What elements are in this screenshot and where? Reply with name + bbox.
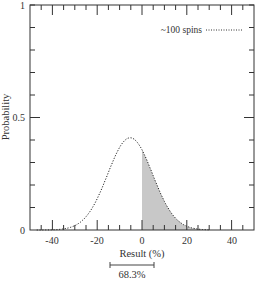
x-axis-label: Result (%): [119, 248, 165, 260]
probability-chart: 1 0.5 0 -40 -20 0 20 40 Result (%) Proba…: [0, 0, 258, 282]
y-tick-label: 1: [20, 0, 25, 11]
y-tick-label: 0.5: [13, 112, 26, 123]
legend-label: ~100 spins: [161, 25, 203, 35]
shaded-region: [142, 150, 209, 230]
y-tick-label: 0: [20, 225, 25, 236]
std-bracket: [110, 262, 154, 268]
bracket-label: 68.3%: [118, 269, 145, 280]
x-tick-label: 20: [182, 235, 192, 246]
x-tick-label: 0: [140, 235, 145, 246]
x-tick-label: -40: [45, 235, 58, 246]
y-axis-label: Probability: [0, 93, 11, 140]
x-tick-label: -20: [90, 235, 103, 246]
x-tick-label: 40: [227, 235, 237, 246]
distribution-curve: [37, 138, 210, 230]
